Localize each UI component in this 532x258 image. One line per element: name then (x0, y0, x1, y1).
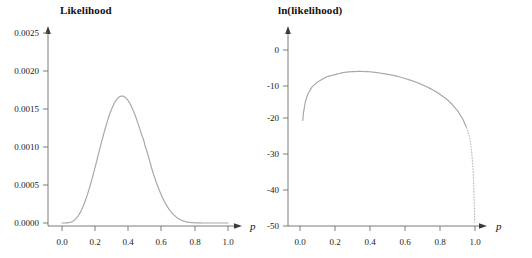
right-x-ticklabel-3: 0.6 (399, 237, 411, 247)
likelihood-curve (62, 96, 228, 223)
left-y-ticklabel-5: 0.0025 (14, 28, 39, 38)
left-y-ticklabel-2: 0.0010 (14, 142, 39, 152)
left-chart-title: Likelihood (60, 4, 112, 16)
ln-likelihood-curve (303, 71, 467, 126)
figure-container: Likelihood 0.0000 0.0005 0 (0, 0, 532, 258)
ln-likelihood-curve-right-tail (467, 128, 475, 223)
left-x-ticklabel-0: 0.0 (56, 237, 68, 247)
left-y-ticklabel-0: 0.0000 (14, 218, 39, 228)
right-y-ticklabel-2: -30 (267, 149, 279, 159)
left-x-ticklabel-4: 0.8 (189, 237, 201, 247)
left-x-ticklabel-1: 0.2 (89, 237, 100, 247)
left-x-ticklabel-3: 0.6 (155, 237, 167, 247)
left-x-ticklabel-5: 1.0 (222, 237, 234, 247)
left-x-axis-arrowhead (234, 223, 242, 229)
right-chart-svg: -50 -40 -30 -20 -10 0 0.0 0.2 0.4 0.6 0.… (266, 0, 532, 258)
right-x-axis-label: p (495, 220, 502, 232)
right-y-ticklabel-3: -20 (267, 113, 279, 123)
right-chart-title: ln(likelihood) (278, 4, 342, 16)
right-y-ticklabel-4: -10 (267, 81, 279, 91)
right-x-axis-arrowhead (479, 223, 487, 229)
right-x-ticklabel-2: 0.4 (364, 237, 376, 247)
right-y-ticklabel-1: -40 (267, 185, 279, 195)
panel-likelihood: Likelihood 0.0000 0.0005 0 (0, 0, 266, 258)
right-y-axis-arrowhead (285, 26, 291, 34)
right-x-ticklabel-5: 1.0 (469, 237, 481, 247)
left-y-ticklabel-1: 0.0005 (14, 180, 39, 190)
right-x-ticklabel-1: 0.2 (329, 237, 340, 247)
left-x-ticklabel-2: 0.4 (122, 237, 134, 247)
right-x-ticklabel-4: 0.8 (434, 237, 446, 247)
left-chart-svg: 0.0000 0.0005 0.0010 0.0015 0.0020 0.002… (0, 0, 266, 258)
panel-ln-likelihood: ln(likelihood) -50 -40 -30 (266, 0, 532, 258)
right-y-ticklabel-0: -50 (267, 221, 279, 231)
left-y-ticklabel-3: 0.0015 (14, 104, 39, 114)
right-x-ticklabel-0: 0.0 (294, 237, 306, 247)
right-y-ticklabel-5: 0 (275, 45, 280, 55)
left-x-axis-label: p (249, 220, 256, 232)
left-y-ticklabel-4: 0.0020 (14, 66, 39, 76)
